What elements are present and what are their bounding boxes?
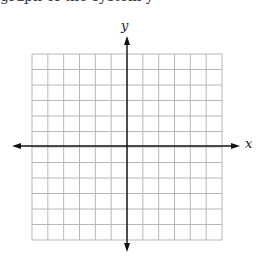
arrow-right-icon — [231, 143, 240, 149]
arrow-down-icon — [124, 243, 130, 252]
arrow-up-icon — [124, 36, 130, 45]
coordinate-plane: graph of the system y x y — [0, 0, 264, 263]
x-axis-label: x — [245, 136, 252, 151]
y-axis-label: y — [121, 18, 128, 33]
cut-off-caption: graph of the system y — [0, 0, 154, 4]
y-axis — [124, 36, 130, 252]
arrow-left-icon — [12, 143, 21, 149]
grid-plot — [0, 0, 264, 263]
